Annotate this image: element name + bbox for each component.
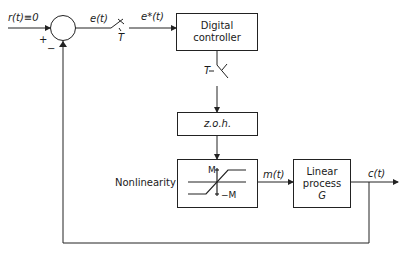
zoh-block: z.o.h. bbox=[177, 112, 258, 136]
nonlinearity-label: Nonlinearity bbox=[115, 178, 176, 188]
upper-limit-label: M bbox=[208, 166, 216, 175]
controller-line1: Digital bbox=[201, 20, 233, 32]
sampler-1-period: T bbox=[118, 33, 124, 43]
sampler-2-period: T bbox=[204, 66, 210, 76]
sampler-1-switch bbox=[111, 19, 123, 28]
plant-line3: G bbox=[318, 190, 326, 202]
input-label: r(t)≡0 bbox=[8, 13, 39, 23]
digital-controller-block: Digital controller bbox=[176, 13, 258, 51]
feedback-arrowhead bbox=[59, 41, 67, 47]
error-label: e(t) bbox=[90, 14, 108, 24]
zoh-label: z.o.h. bbox=[204, 118, 231, 130]
nonlinearity-block bbox=[177, 159, 258, 208]
output-label: c(t) bbox=[368, 169, 385, 179]
linear-process-block: Linear process G bbox=[293, 159, 351, 208]
feedback-path bbox=[63, 41, 369, 243]
plant-line2: process bbox=[303, 178, 341, 190]
sampler-2-switch bbox=[217, 65, 228, 78]
summing-junction bbox=[51, 16, 76, 41]
sampled-error-label: e*(t) bbox=[141, 12, 164, 22]
controller-line2: controller bbox=[193, 32, 241, 44]
lower-limit-label: −M bbox=[221, 191, 236, 200]
control-signal-label: m(t) bbox=[263, 170, 284, 180]
minus-sign: − bbox=[47, 44, 55, 54]
plant-line1: Linear bbox=[306, 166, 337, 178]
